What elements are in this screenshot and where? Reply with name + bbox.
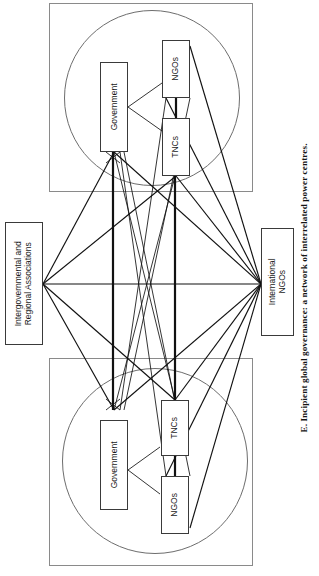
cluster-circle-bottom bbox=[62, 368, 248, 554]
node-bottom-ngos[interactable]: NGOs bbox=[161, 476, 189, 534]
node-bottom-government-label: Government bbox=[109, 442, 119, 489]
node-intergovernmental-regional-associations[interactable]: Intergovernmental and Regional Associati… bbox=[5, 222, 43, 345]
node-top-tncs[interactable]: TNCs bbox=[162, 118, 190, 176]
node-bottom-tncs[interactable]: TNCs bbox=[161, 400, 189, 456]
node-top-government-label: Government bbox=[109, 84, 119, 131]
node-bottom-tncs-label: TNCs bbox=[170, 417, 180, 439]
figure-caption-text: E. Incipient global governance: a networ… bbox=[299, 143, 309, 432]
cluster-circle-top bbox=[64, 10, 240, 186]
node-international-ngos-label: International NGOs bbox=[268, 259, 288, 306]
node-top-tncs-label: TNCs bbox=[171, 136, 181, 158]
node-bottom-government[interactable]: Government bbox=[100, 420, 128, 510]
figure-canvas: Government NGOs TNCs Government TNCs NGO… bbox=[0, 0, 319, 576]
node-top-ngos[interactable]: NGOs bbox=[162, 40, 190, 98]
node-bottom-ngos-label: NGOs bbox=[170, 493, 180, 517]
node-top-ngos-label: NGOs bbox=[171, 57, 181, 81]
node-top-government[interactable]: Government bbox=[100, 62, 128, 152]
figure-caption: E. Incipient global governance: a networ… bbox=[289, 0, 319, 576]
node-intergovernmental-regional-associations-label: Intergovernmental and Regional Associati… bbox=[14, 241, 34, 326]
